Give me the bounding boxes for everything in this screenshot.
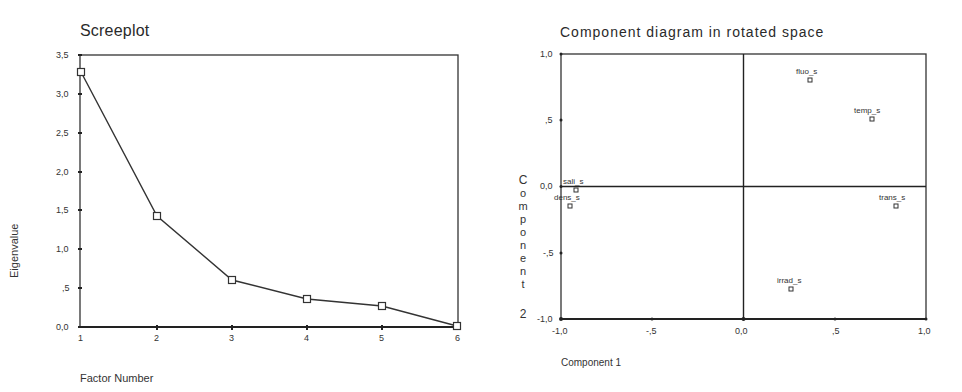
point-temp-s (870, 117, 874, 121)
y-tick: -,5 (543, 248, 554, 258)
x-axis-label: Component 1 (561, 357, 621, 368)
label-fluo-s: fluo_s (796, 67, 817, 76)
y-axis-label-number: 2 (517, 308, 529, 321)
x-tick: 1,0 (918, 326, 931, 336)
y-tick: -1,0 (537, 314, 553, 324)
y-tick: 1,0 (540, 49, 553, 59)
label-sali-s: sali_s (563, 177, 583, 186)
label-temp-s: temp_s (854, 106, 880, 115)
label-dens-s: dens_s (554, 193, 580, 202)
component-plot (0, 0, 962, 392)
x-tick: ,5 (832, 326, 840, 336)
y-axis-label: C o m p o n e n t (517, 174, 529, 291)
point-dens-s (568, 204, 572, 208)
label-trans-s: trans_s (879, 193, 905, 202)
label-irrad-s: irrad_s (777, 276, 801, 285)
x-tick: -1,0 (552, 326, 568, 336)
y-tick: ,5 (545, 115, 553, 125)
x-tick: 0,0 (735, 326, 748, 336)
point-irrad-s (789, 287, 793, 291)
x-tick: -,5 (646, 326, 657, 336)
y-tick: 0,0 (540, 181, 553, 191)
point-trans-s (894, 204, 898, 208)
point-sali-s (574, 188, 578, 192)
point-fluo-s (808, 78, 812, 82)
